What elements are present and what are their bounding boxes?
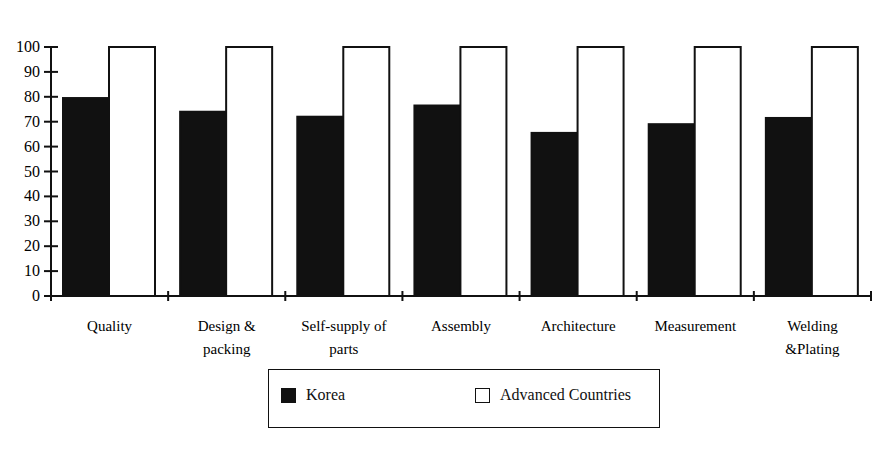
y-tick-label: 100	[16, 38, 40, 55]
y-tick-label: 0	[32, 287, 40, 304]
x-category-label: Welding	[787, 318, 838, 334]
bar-korea	[414, 106, 460, 296]
x-category-label: Design &	[198, 318, 256, 334]
y-tick-label: 40	[24, 187, 40, 204]
bar-korea	[766, 118, 812, 296]
legend-item-korea: Korea	[281, 386, 345, 404]
x-axis: QualityDesign &packingSelf-supply ofpart…	[51, 291, 871, 357]
bar-advanced-countries	[109, 47, 155, 296]
bar-advanced-countries	[343, 47, 389, 296]
x-category-label: parts	[329, 341, 358, 357]
x-category-label: packing	[203, 341, 251, 357]
x-category-label: Measurement	[654, 318, 736, 334]
x-category-label: Assembly	[431, 318, 492, 334]
bar-advanced-countries	[226, 47, 272, 296]
bar-advanced-countries	[578, 47, 624, 296]
legend-label: Advanced Countries	[500, 386, 631, 404]
bar-korea	[649, 124, 695, 296]
bar-advanced-countries	[812, 47, 858, 296]
x-category-label: Architecture	[541, 318, 616, 334]
y-tick-label: 60	[24, 138, 40, 155]
legend-item-advanced-countries: Advanced Countries	[475, 386, 631, 404]
bar-korea	[532, 133, 578, 296]
bar-advanced-countries	[460, 47, 506, 296]
bar-advanced-countries	[695, 47, 741, 296]
y-tick-label: 80	[24, 88, 40, 105]
y-tick-label: 70	[24, 113, 40, 130]
bar-chart: 0102030405060708090100 QualityDesign &pa…	[0, 0, 896, 370]
bars	[63, 47, 858, 296]
legend-swatch-filled-icon	[281, 388, 296, 403]
y-tick-label: 20	[24, 237, 40, 254]
y-tick-label: 90	[24, 63, 40, 80]
bar-korea	[180, 112, 226, 296]
y-tick-label: 30	[24, 212, 40, 229]
x-category-label: &Plating	[785, 341, 840, 357]
y-axis: 0102030405060708090100	[16, 38, 58, 304]
x-category-label: Quality	[87, 318, 132, 334]
y-tick-label: 10	[24, 262, 40, 279]
legend-label: Korea	[306, 386, 345, 404]
x-category-label: Self-supply of	[301, 318, 386, 334]
bar-korea	[63, 98, 109, 296]
legend: Korea Advanced Countries	[268, 369, 660, 428]
legend-swatch-empty-icon	[475, 388, 490, 403]
bar-korea	[297, 117, 343, 296]
y-tick-label: 50	[24, 163, 40, 180]
